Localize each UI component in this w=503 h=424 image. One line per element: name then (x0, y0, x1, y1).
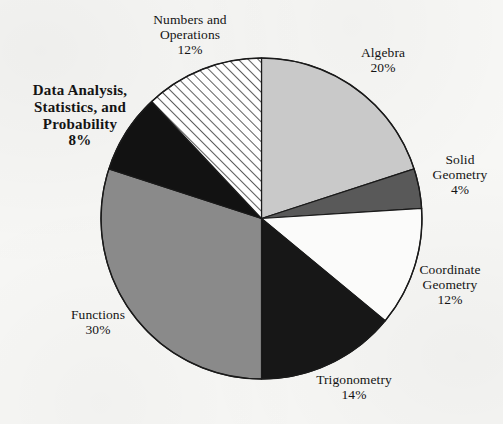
slice-label-name-line: Operations (125, 27, 255, 42)
slice-label-name-line: Probability (5, 116, 155, 133)
slice-label-name-line: Geometry (418, 167, 502, 182)
slice-label-trigonometry: Trigonometry 14% (296, 372, 412, 402)
slice-label-name-line: Coordinate (398, 262, 502, 277)
slice-label-value: 4% (418, 182, 502, 197)
slice-label-name-line: Numbers and (125, 12, 255, 27)
slice-label-value: 30% (42, 322, 154, 337)
slice-label-value: 14% (296, 387, 412, 402)
slice-label-name-line: Geometry (398, 277, 502, 292)
slice-label-value: 20% (330, 60, 436, 75)
slice-label-algebra: Algebra 20% (330, 45, 436, 75)
slice-label-name-line: Solid (418, 152, 502, 167)
slice-label-value: 8% (5, 132, 155, 149)
slice-label-name-line: Algebra (330, 45, 436, 60)
slice-label-data-analysis: Data Analysis, Statistics, and Probabili… (5, 82, 155, 149)
slice-label-name-line: Statistics, and (5, 99, 155, 116)
slice-label-name-line: Trigonometry (296, 372, 412, 387)
slice-label-coordinate-geometry: Coordinate Geometry 12% (398, 262, 502, 307)
slice-label-name-line: Data Analysis, (5, 82, 155, 99)
slice-label-functions: Functions 30% (42, 307, 154, 337)
slice-label-value: 12% (125, 42, 255, 57)
slice-label-solid-geometry: Solid Geometry 4% (418, 152, 502, 197)
slice-label-value: 12% (398, 292, 502, 307)
slice-label-numbers-and-operations: Numbers and Operations 12% (125, 12, 255, 57)
pie-chart: Numbers and Operations 12% Data Analysis… (0, 0, 503, 424)
slice-label-name-line: Functions (42, 307, 154, 322)
